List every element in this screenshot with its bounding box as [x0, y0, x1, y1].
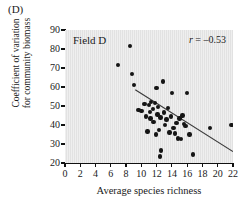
- data-point: [139, 109, 143, 113]
- x-tick-2: [80, 163, 81, 167]
- x-tick-20: [217, 163, 218, 167]
- data-point: [167, 130, 171, 134]
- data-point: [187, 132, 191, 136]
- correlation-value: = –0.53: [193, 34, 226, 45]
- x-axis-title: Average species richness: [55, 185, 242, 197]
- x-tick-12: [156, 163, 157, 167]
- data-point: [145, 129, 149, 133]
- data-point: [164, 117, 168, 121]
- x-axis-tick-labels: 0246810121416182022: [0, 168, 242, 182]
- y-axis-title: Coefficient of variation for community b…: [11, 0, 33, 131]
- regression-line: [65, 30, 233, 163]
- y-tick-label-80: 80: [40, 44, 60, 54]
- data-point: [157, 128, 161, 132]
- data-point: [180, 113, 184, 117]
- y-tick-label-90: 90: [40, 25, 60, 35]
- data-point: [154, 132, 158, 136]
- data-point: [158, 154, 162, 158]
- y-tick-label-40: 40: [40, 120, 60, 130]
- x-tick-label-22: 22: [224, 168, 242, 179]
- y-tick-label-50: 50: [40, 101, 60, 111]
- x-tick-14: [171, 163, 172, 167]
- data-point: [174, 121, 178, 125]
- y-tick-label-20: 20: [40, 158, 60, 168]
- correlation-label: r = –0.53: [189, 34, 226, 46]
- x-tick-6: [110, 163, 111, 167]
- data-point: [151, 107, 155, 111]
- series-label: Field D: [73, 34, 106, 46]
- data-point: [169, 114, 173, 118]
- data-point: [170, 91, 174, 95]
- x-tick-22: [232, 163, 233, 167]
- x-tick-4: [95, 163, 96, 167]
- y-tick-60: [61, 86, 65, 87]
- x-tick-8: [125, 163, 126, 167]
- y-tick-70: [61, 67, 65, 68]
- data-point: [229, 123, 233, 127]
- data-point: [158, 115, 162, 119]
- y-tick-30: [61, 143, 65, 144]
- x-tick-0: [64, 163, 65, 167]
- x-tick-18: [202, 163, 203, 167]
- figure-panel-d: (D) Coefficient of variation for communi…: [0, 0, 242, 207]
- x-tick-10: [141, 163, 142, 167]
- y-tick-80: [61, 48, 65, 49]
- plot-inner: [65, 30, 233, 163]
- data-point: [173, 131, 177, 135]
- data-point: [161, 79, 165, 83]
- data-point: [171, 126, 175, 130]
- y-tick-50: [61, 105, 65, 106]
- y-tick-90: [61, 29, 65, 30]
- plot-area: Field D r = –0.53: [65, 30, 233, 163]
- y-axis-title-line2: for community biomass: [22, 0, 33, 131]
- y-axis-title-line1: Coefficient of variation: [11, 0, 22, 131]
- x-tick-16: [187, 163, 188, 167]
- data-point: [154, 86, 158, 90]
- data-point: [183, 124, 187, 128]
- y-tick-label-70: 70: [40, 63, 60, 73]
- data-point: [142, 102, 146, 106]
- y-tick-40: [61, 124, 65, 125]
- y-tick-label-30: 30: [40, 139, 60, 149]
- y-tick-label-60: 60: [40, 82, 60, 92]
- x-axis-line: [64, 163, 234, 164]
